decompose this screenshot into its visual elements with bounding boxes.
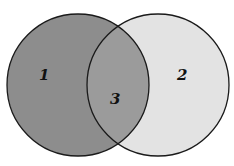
region-label-2: 2: [176, 66, 187, 84]
venn-diagram: 1 2 3: [0, 0, 234, 166]
region-label-1: 1: [39, 66, 49, 84]
region-label-3: 3: [110, 90, 120, 108]
